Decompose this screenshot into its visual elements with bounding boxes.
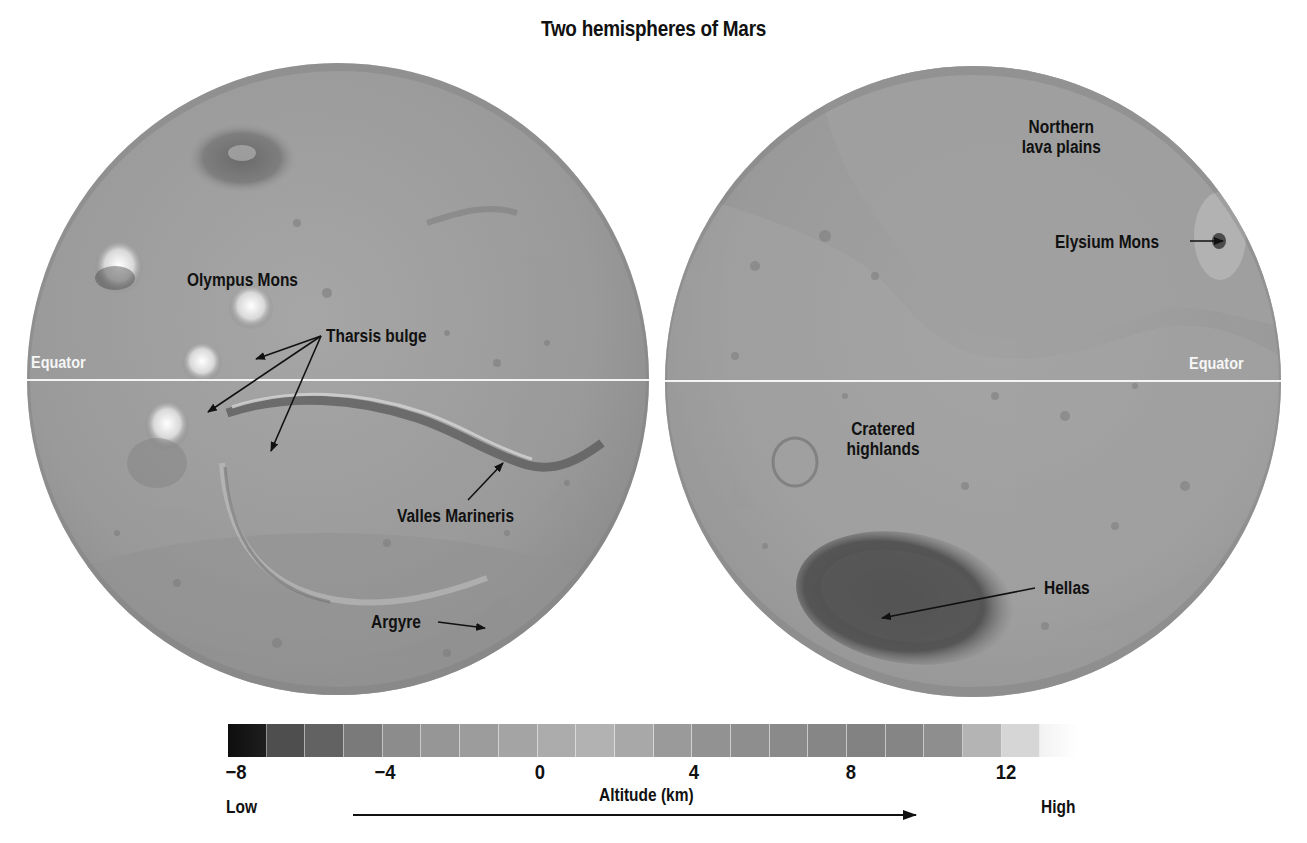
- low-to-high-arrow: [0, 0, 1307, 843]
